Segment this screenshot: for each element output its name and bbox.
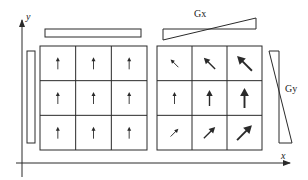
gy-bar-off [27, 51, 35, 143]
diagram: y x Gx Gy [0, 0, 308, 180]
magnetization-arrow-icon [56, 92, 60, 104]
magnetization-arrow-icon [173, 92, 177, 104]
magnetization-arrow-icon [206, 90, 212, 106]
gy-gradient-wedge [269, 51, 292, 143]
magnetization-arrow-icon [127, 57, 131, 69]
gx-gradient-wedge [163, 18, 256, 40]
magnetization-arrow-icon [202, 55, 218, 71]
gy-label: Gy [285, 84, 297, 94]
y-axis-label: y [26, 12, 30, 22]
magnetization-arrow-icon [56, 57, 60, 69]
magnetization-arrow-icon [127, 92, 131, 104]
right-magnetization-grid [157, 46, 262, 150]
left-magnetization-grid [40, 46, 147, 150]
magnetization-arrow-icon [92, 57, 96, 69]
magnetization-arrow-icon [169, 127, 180, 138]
gx-label: Gx [194, 9, 206, 19]
magnetization-arrow-icon [234, 122, 255, 143]
magnetization-arrow-icon [234, 53, 255, 74]
magnetization-arrow-icon [92, 92, 96, 104]
magnetization-arrow-icon [202, 125, 218, 141]
diagram-canvas [0, 0, 308, 180]
magnetization-arrow-icon [127, 127, 131, 139]
x-axis-label: x [281, 151, 285, 161]
magnetization-arrow-icon [240, 88, 249, 108]
magnetization-arrow-icon [92, 127, 96, 139]
magnetization-arrow-icon [56, 127, 60, 139]
magnetization-arrow-icon [169, 58, 180, 69]
gx-bar-off [45, 29, 141, 37]
